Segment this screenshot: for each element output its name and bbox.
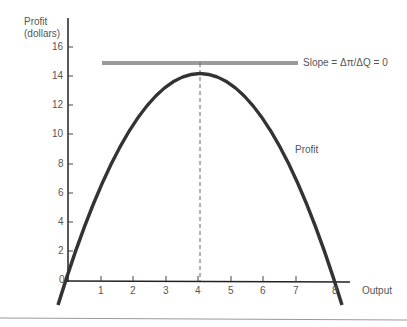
bottom-rule <box>0 318 407 320</box>
x-tick-2: 2 <box>130 285 136 296</box>
y-tick-14: 14 <box>52 70 63 81</box>
x-tick-8: 8 <box>332 285 338 296</box>
y-tick-8: 8 <box>58 158 64 169</box>
y-tick-6: 6 <box>58 187 64 198</box>
y-axis-label-line1: Profit <box>24 16 60 28</box>
x-axis <box>66 281 350 282</box>
x-tick-1: 1 <box>98 285 104 296</box>
x-tick-3: 3 <box>163 285 169 296</box>
x-ticks <box>101 276 296 281</box>
x-axis-label: Output <box>362 285 392 296</box>
x-tick-4: 4 <box>195 285 201 296</box>
y-tick-0: 0 <box>59 274 65 285</box>
slope-annotation: Slope = Δπ/ΔQ = 0 <box>303 57 388 68</box>
x-tick-6: 6 <box>260 285 266 296</box>
x-tick-7: 7 <box>293 285 299 296</box>
y-axis-label-line2: (dollars) <box>24 28 60 40</box>
y-tick-4: 4 <box>58 216 64 227</box>
y-tick-12: 12 <box>52 99 63 110</box>
y-axis-label: Profit (dollars) <box>24 16 60 40</box>
x-tick-5: 5 <box>228 285 234 296</box>
y-tick-16: 16 <box>52 41 63 52</box>
y-tick-10: 10 <box>52 128 63 139</box>
y-tick-2: 2 <box>58 245 64 256</box>
curve-label: Profit <box>295 144 318 155</box>
